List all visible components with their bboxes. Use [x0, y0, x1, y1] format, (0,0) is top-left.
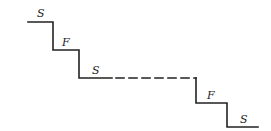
- step-label-2: F: [61, 36, 70, 49]
- step-label-3: S: [92, 64, 100, 77]
- step-label-1: S: [37, 7, 45, 20]
- staircase-diagram: S F S F S: [0, 0, 271, 131]
- step-label-5: S: [240, 113, 248, 126]
- step-label-4: F: [206, 89, 215, 102]
- staircase-lower-path: [196, 78, 258, 127]
